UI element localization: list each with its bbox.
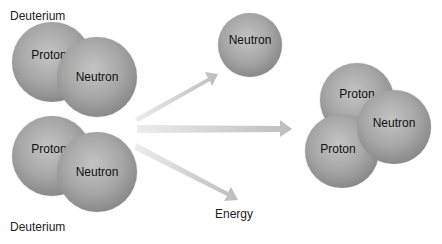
helium-neutron: Neutron [357,90,431,164]
free-neutron-particle: Neutron [218,13,282,77]
arrow-to-neutron [135,72,218,122]
neutron-label: Neutron [76,165,119,179]
arrow-to-energy [135,143,238,201]
neutron-label: Neutron [229,33,272,47]
energy-label: Energy [215,207,253,221]
neutron-particle: Neutron [57,37,137,117]
neutron-particle: Neutron [57,132,137,212]
deuterium-label-bottom: Deuterium [10,220,65,234]
neutron-label: Neutron [373,116,416,130]
neutron-label: Neutron [76,70,119,84]
proton-label: Proton [320,142,355,156]
deuterium-label-top: Deuterium [10,9,65,23]
arrow-to-helium [137,120,292,137]
